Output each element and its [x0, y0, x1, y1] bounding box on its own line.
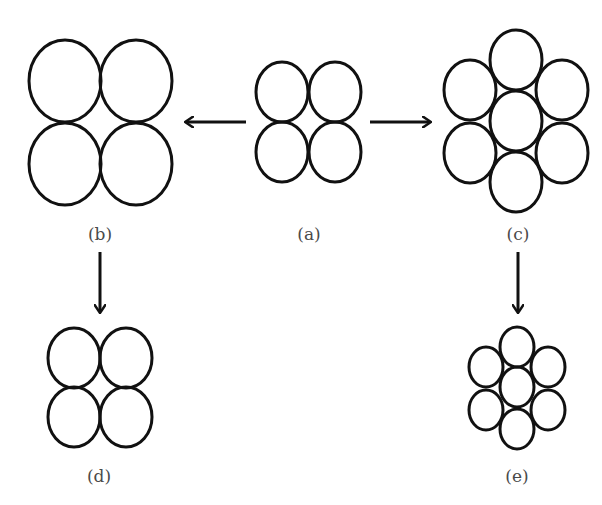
- panel-b-label: (b): [88, 224, 112, 244]
- panel-e-label: (e): [505, 466, 528, 486]
- panel-d-circles: [48, 328, 152, 447]
- panel-b-circles: [29, 40, 172, 205]
- panel-c-circles: [444, 30, 588, 212]
- packing-diagram: (b) (a) (c) (d): [0, 0, 602, 505]
- panel-e-circles: [469, 327, 565, 449]
- panel-c-label: (c): [507, 224, 530, 244]
- panel-a-label: (a): [297, 224, 320, 244]
- panel-a-circles: [256, 62, 361, 182]
- panel-d-label: (d): [87, 466, 111, 486]
